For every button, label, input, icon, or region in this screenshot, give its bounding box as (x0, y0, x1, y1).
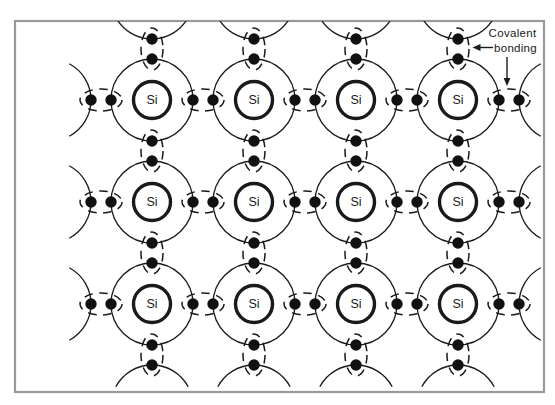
annotation-group: Covalent bonding (473, 27, 538, 86)
covalent-bond-pair (447, 334, 469, 376)
electron-dot (146, 135, 157, 146)
covalent-bond-pair (447, 130, 469, 172)
electron-dot (411, 94, 422, 105)
electron-dot (289, 94, 300, 105)
electron-dot (207, 196, 218, 207)
electron-dot (146, 359, 157, 370)
electron-dot (85, 298, 96, 309)
covalent-bond-pair (182, 89, 224, 111)
covalent-bond-pair (284, 89, 326, 111)
atom-symbol: Si (350, 93, 361, 107)
covalent-bond-pair (447, 232, 469, 274)
covalent-bond-pair (284, 191, 326, 213)
electron-dot (452, 339, 463, 350)
electron-dot (85, 94, 96, 105)
electron-dot (146, 155, 157, 166)
electron-dot (248, 135, 259, 146)
electron-dot (248, 257, 259, 268)
electron-dot (350, 53, 361, 64)
electron-dot (248, 155, 259, 166)
electron-dot (493, 298, 504, 309)
atom-symbol: Si (350, 195, 361, 209)
covalent-bond-pair (345, 334, 367, 376)
covalent-bond-pair (488, 191, 530, 213)
electron-dot (350, 237, 361, 248)
electron-dot (452, 53, 463, 64)
covalent-bond-pair (182, 191, 224, 213)
electron-dot (85, 196, 96, 207)
electron-dot (452, 33, 463, 44)
electron-dot (350, 359, 361, 370)
electron-dot (391, 298, 402, 309)
covalent-bond-pair (243, 334, 265, 376)
covalent-bond-pair (141, 232, 163, 274)
electron-dot (289, 196, 300, 207)
electron-dot (289, 298, 300, 309)
electron-dot (350, 257, 361, 268)
electron-dot (452, 237, 463, 248)
atom-symbol: Si (146, 297, 157, 311)
covalent-bond-pair (386, 89, 428, 111)
electron-dot (411, 196, 422, 207)
covalent-bond-pair (243, 130, 265, 172)
electron-dot (187, 298, 198, 309)
covalent-bond-pair (488, 89, 530, 111)
electron-dot (146, 339, 157, 350)
electron-dot (391, 196, 402, 207)
covalent-bonding-arrow-vertical (504, 57, 511, 86)
electron-dot (513, 298, 524, 309)
covalent-bond-pair (182, 293, 224, 315)
atom-symbol: Si (248, 93, 259, 107)
atom-symbol: Si (350, 297, 361, 311)
covalent-bond-pair (80, 89, 122, 111)
covalent-bond-pair (386, 293, 428, 315)
electron-dot (513, 94, 524, 105)
covalent-bond-pair (345, 28, 367, 70)
atom-symbol: Si (146, 93, 157, 107)
covalent-bond-pair (141, 130, 163, 172)
electron-dot (452, 359, 463, 370)
electron-dot (452, 155, 463, 166)
atom-symbol: Si (452, 93, 463, 107)
electron-dot (452, 257, 463, 268)
electron-dot (187, 94, 198, 105)
electron-dot (146, 257, 157, 268)
electron-dot (146, 53, 157, 64)
atom-symbol: Si (452, 195, 463, 209)
lattice-group: SiSiSiSiSiSiSiSiSiSiSiSi (69, 17, 541, 387)
electron-dot (207, 298, 218, 309)
covalent-bond-pair (243, 28, 265, 70)
electron-dot (493, 94, 504, 105)
electron-dot (309, 298, 320, 309)
electron-dot (350, 339, 361, 350)
covalent-bond-pair (488, 293, 530, 315)
atom-symbol: Si (452, 297, 463, 311)
electron-dot (350, 135, 361, 146)
electron-dot (452, 135, 463, 146)
electron-dot (248, 359, 259, 370)
electron-dot (248, 53, 259, 64)
electron-dot (105, 94, 116, 105)
atom-symbol: Si (248, 195, 259, 209)
covalent-bond-pair (284, 293, 326, 315)
covalent-bond-pair (345, 232, 367, 274)
electron-dot (391, 94, 402, 105)
covalent-bonding-label-line1: Covalent (489, 27, 537, 39)
electron-dot (248, 339, 259, 350)
electron-dot (493, 196, 504, 207)
electron-dot (248, 237, 259, 248)
electron-dot (309, 196, 320, 207)
electron-dot (187, 196, 198, 207)
electron-dot (350, 155, 361, 166)
atom-symbol: Si (248, 297, 259, 311)
covalent-bond-pair (345, 130, 367, 172)
electron-dot (513, 196, 524, 207)
covalent-bonding-arrow-horizontal (473, 44, 494, 51)
electron-dot (105, 298, 116, 309)
silicon-lattice-diagram: SiSiSiSiSiSiSiSiSiSiSiSi Covalent bondin… (0, 0, 555, 405)
covalent-bonding-label-line2: bonding (494, 42, 537, 54)
electron-dot (248, 33, 259, 44)
electron-dot (105, 196, 116, 207)
electron-dot (350, 33, 361, 44)
covalent-bond-pair (141, 334, 163, 376)
